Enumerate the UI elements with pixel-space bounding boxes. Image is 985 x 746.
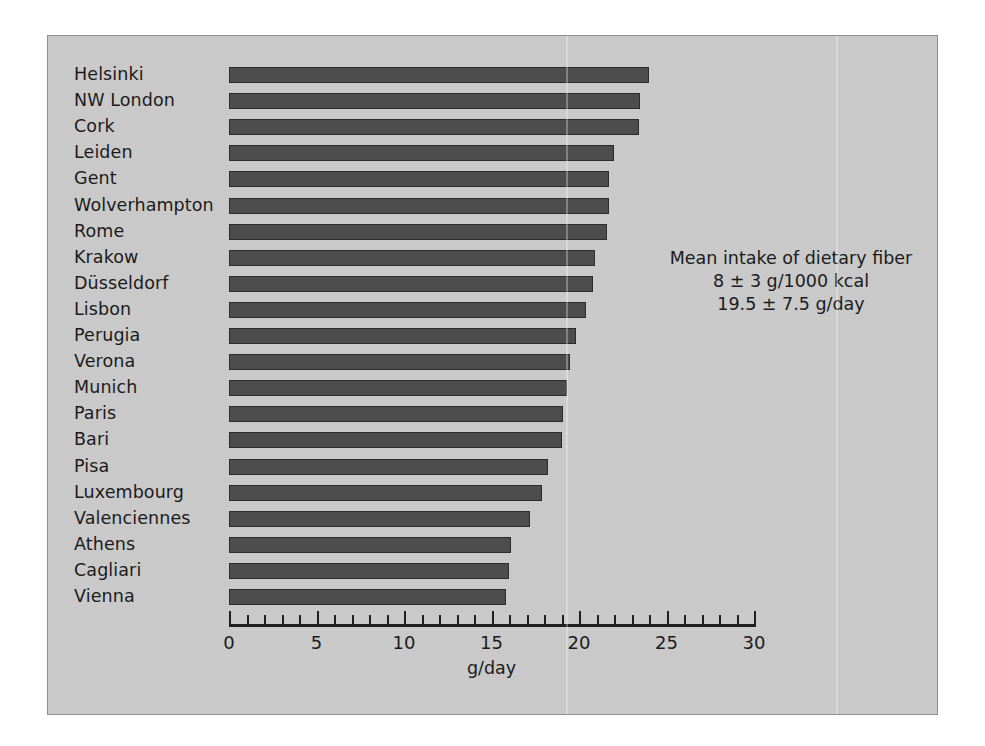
axis-tick-label: 15 xyxy=(480,632,503,653)
bar xyxy=(229,563,509,579)
x-axis-line xyxy=(229,624,756,627)
axis-tick-major xyxy=(229,611,231,624)
bar xyxy=(229,432,562,448)
axis-tick-minor xyxy=(352,615,354,624)
category-label: Rome xyxy=(74,221,124,241)
axis-tick-major xyxy=(492,611,494,624)
category-label: Pisa xyxy=(74,456,109,476)
axis-tick-label: 0 xyxy=(223,632,234,653)
mean-intake-annotation: Mean intake of dietary fiber 8 ± 3 g/100… xyxy=(646,247,936,316)
bar xyxy=(229,589,506,605)
chart-row: Valenciennes xyxy=(48,507,937,533)
category-label: Wolverhampton xyxy=(74,195,214,215)
category-label: Verona xyxy=(74,351,135,371)
axis-tick-minor xyxy=(597,615,599,624)
axis-tick-minor xyxy=(544,615,546,624)
axis-tick-minor xyxy=(719,615,721,624)
category-label: Paris xyxy=(74,403,116,423)
bar xyxy=(229,145,614,161)
bar xyxy=(229,354,570,370)
bar xyxy=(229,406,563,422)
category-label: Valenciennes xyxy=(74,508,191,528)
axis-tick-minor xyxy=(282,615,284,624)
bar xyxy=(229,276,593,292)
annotation-line-1: Mean intake of dietary fiber xyxy=(646,247,936,270)
bar xyxy=(229,119,639,135)
bar xyxy=(229,485,542,501)
axis-tick-minor xyxy=(562,615,564,624)
chart-row: NW London xyxy=(48,89,937,115)
axis-tick-minor xyxy=(509,615,511,624)
axis-tick-minor xyxy=(387,615,389,624)
axis-tick-major xyxy=(404,611,406,624)
chart-row: Munich xyxy=(48,376,937,402)
axis-tick-major xyxy=(579,611,581,624)
chart-row: Pisa xyxy=(48,455,937,481)
axis-tick-minor xyxy=(614,615,616,624)
chart-row: Perugia xyxy=(48,324,937,350)
axis-tick-label: 25 xyxy=(655,632,678,653)
bar xyxy=(229,250,595,266)
bar xyxy=(229,67,649,83)
axis-tick-minor xyxy=(632,615,634,624)
axis-tick-minor xyxy=(439,615,441,624)
axis-tick-major xyxy=(317,611,319,624)
bar xyxy=(229,302,586,318)
chart-row: Rome xyxy=(48,220,937,246)
category-label: Athens xyxy=(74,534,135,554)
axis-tick-label: 20 xyxy=(568,632,591,653)
chart-row: Athens xyxy=(48,533,937,559)
category-label: Gent xyxy=(74,168,117,188)
bar xyxy=(229,537,511,553)
chart-row: Cork xyxy=(48,115,937,141)
chart-row: Gent xyxy=(48,167,937,193)
chart-row: Paris xyxy=(48,402,937,428)
bar xyxy=(229,93,640,109)
chart-row: Luxembourg xyxy=(48,481,937,507)
bar xyxy=(229,380,567,396)
category-label: Lisbon xyxy=(74,299,131,319)
chart-row: Vienna xyxy=(48,585,937,611)
chart-row: Wolverhampton xyxy=(48,194,937,220)
category-label: Bari xyxy=(74,429,109,449)
category-label: Munich xyxy=(74,377,137,397)
category-label: Cork xyxy=(74,116,115,136)
category-label: NW London xyxy=(74,90,175,110)
axis-tick-minor xyxy=(369,615,371,624)
bar xyxy=(229,459,548,475)
bar xyxy=(229,511,530,527)
axis-tick-minor xyxy=(422,615,424,624)
category-label: Krakow xyxy=(74,247,139,267)
chart-row: Leiden xyxy=(48,141,937,167)
axis-tick-minor xyxy=(684,615,686,624)
x-axis-title-text: g/day xyxy=(467,658,516,678)
chart-panel: HelsinkiNW LondonCorkLeidenGentWolverham… xyxy=(47,35,938,715)
chart-row: Helsinki xyxy=(48,63,937,89)
axis-tick-minor xyxy=(457,615,459,624)
axis-tick-major xyxy=(754,611,756,624)
x-axis-title: g/day xyxy=(467,658,516,678)
category-label: Luxembourg xyxy=(74,482,184,502)
category-label: Cagliari xyxy=(74,560,141,580)
chart-row: Verona xyxy=(48,350,937,376)
axis-tick-label: 5 xyxy=(311,632,322,653)
category-label: Leiden xyxy=(74,142,133,162)
axis-tick-minor xyxy=(247,615,249,624)
axis-tick-minor xyxy=(737,615,739,624)
bar xyxy=(229,224,607,240)
axis-tick-minor xyxy=(649,615,651,624)
axis-tick-label: 30 xyxy=(743,632,766,653)
chart-row: Cagliari xyxy=(48,559,937,585)
annotation-line-2: 8 ± 3 g/1000 kcal xyxy=(646,270,936,293)
bar xyxy=(229,328,576,344)
bar xyxy=(229,198,609,214)
axis-tick-minor xyxy=(264,615,266,624)
axis-tick-major xyxy=(667,611,669,624)
annotation-line-3: 19.5 ± 7.5 g/day xyxy=(646,293,936,316)
axis-tick-minor xyxy=(299,615,301,624)
bar xyxy=(229,171,609,187)
category-label: Düsseldorf xyxy=(74,273,169,293)
axis-tick-minor xyxy=(527,615,529,624)
chart-row: Bari xyxy=(48,428,937,454)
category-label: Perugia xyxy=(74,325,140,345)
